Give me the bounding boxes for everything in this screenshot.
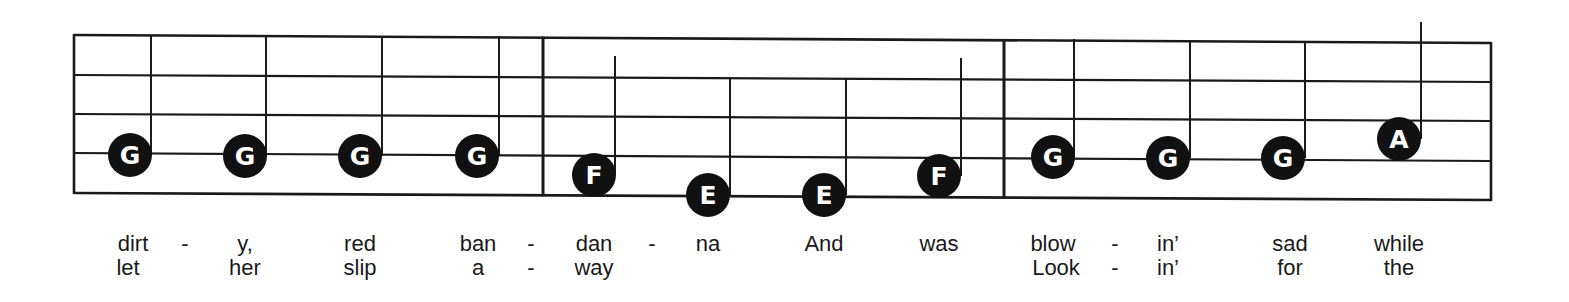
lyric-verse1: dirt [118,233,149,255]
note-letter: G [1043,143,1064,172]
lyric-verse2: - [527,257,534,279]
lyric-verse2: way [574,257,613,279]
lyric-verse1: - [181,233,188,255]
note-letter: G [350,142,371,171]
lyric-verse1: y, [237,233,252,255]
staff-line [74,114,1491,121]
staff-line [74,35,1491,43]
note-letter: G [1273,144,1294,173]
lyric-verse1: blow [1030,233,1075,255]
lyric-verse2: her [229,257,261,279]
lyric-verse2: Look [1032,257,1080,279]
lyric-verse2: a [472,257,484,279]
lyric-verse1: in’ [1157,233,1179,255]
lyric-verse1: while [1374,233,1424,255]
lyric-verse2: in’ [1157,257,1179,279]
lyric-verse1: ban [460,233,497,255]
note-letter: E [815,181,832,210]
lyric-verse1: red [344,233,376,255]
lyric-verse1: was [919,233,958,255]
lyric-verse2: slip [343,257,376,279]
lyric-verse1: - [648,233,655,255]
staff-line [74,75,1491,82]
staff-line [74,193,1491,200]
note-letter: G [235,142,256,171]
note-letter: F [585,161,602,190]
lyric-verse1: dan [576,233,613,255]
note-letter: G [467,142,488,171]
lyric-verse2: - [1111,257,1118,279]
lyric-verse1: - [527,233,534,255]
lyric-verse2: the [1384,257,1415,279]
lyric-verse1: - [1111,233,1118,255]
lyric-verse1: sad [1272,233,1307,255]
lyric-verse1: na [696,233,720,255]
note-letter: G [120,141,141,170]
note-letter: G [1158,144,1179,173]
lyric-verse2: for [1277,257,1303,279]
lyric-verse2: let [116,257,139,279]
note-letter: E [699,181,716,210]
note-letter: F [930,162,947,191]
lyric-verse1: And [804,233,843,255]
music-score: GGGGFEEFGGGA dirt-y,redban-dan-naAndwasb… [0,0,1569,302]
note-letter: A [1389,125,1409,154]
